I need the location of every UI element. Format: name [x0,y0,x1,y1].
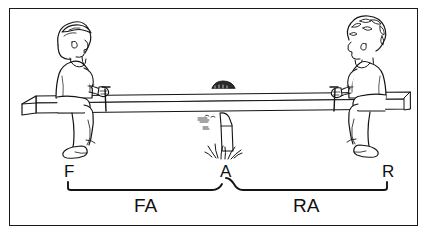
brace-ra [226,178,387,190]
brace-fa [68,182,222,190]
fulcrum-post [198,81,242,159]
label-point-r: R [382,163,394,180]
seesaw-illustration [0,0,428,236]
right-person-figure [330,16,386,157]
label-point-a: A [220,163,231,180]
label-force-arm: FA [134,196,157,215]
label-resistance-arm: RA [293,196,319,215]
label-point-f: F [64,163,74,180]
diagram-canvas: F A R FA RA [0,0,428,236]
left-person-figure [56,22,110,159]
